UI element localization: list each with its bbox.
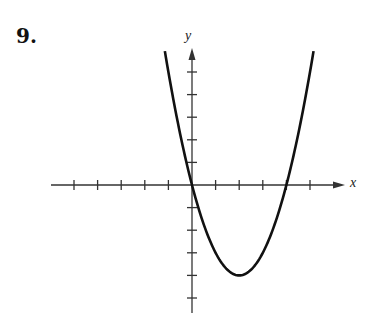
y-axis-arrow-icon xyxy=(189,48,196,60)
x-axis-arrow-icon xyxy=(333,182,345,189)
axes xyxy=(51,48,345,313)
parabola-chart xyxy=(0,0,384,323)
parabola-curve xyxy=(165,51,314,275)
